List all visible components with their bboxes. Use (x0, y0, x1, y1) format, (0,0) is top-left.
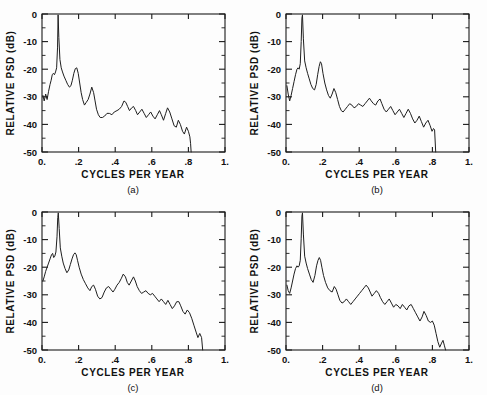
psd-curve-a (43, 15, 191, 152)
psd-plot-a: 0..2.4.6.81.0-10-20-30-40-50 CYCLES PER … (0, 0, 243, 197)
plot-frame-b (286, 14, 469, 152)
x-tick-label: .6 (392, 156, 400, 167)
psd-curve-b (287, 15, 436, 152)
x-tick-label: 1. (221, 156, 229, 167)
figure-container: 0..2.4.6.81.0-10-20-30-40-50 CYCLES PER … (0, 0, 487, 395)
y-tick-label: -30 (267, 289, 281, 300)
y-tick-label: 0 (276, 9, 281, 20)
x-tick-label: 0. (38, 156, 46, 167)
psd-plot-d: 0..2.4.6.81.0-10-20-30-40-50 CYCLES PER … (244, 198, 487, 395)
y-tick-label: -30 (267, 91, 281, 102)
axis-tick-labels-a: 0..2.4.6.81.0-10-20-30-40-50 (23, 9, 229, 168)
x-axis-label-c: CYCLES PER YEAR (81, 367, 184, 378)
plot-frame-a (42, 14, 225, 152)
axis-ticks-c (42, 212, 225, 350)
x-tick-label: .8 (428, 156, 436, 167)
y-axis-label-c: RELATIVE PSD (dB) (5, 228, 16, 333)
x-axis-label-d: CYCLES PER YEAR (325, 367, 428, 378)
y-axis-label-b: RELATIVE PSD (dB) (249, 30, 260, 135)
panel-label-c: (c) (127, 382, 138, 393)
y-tick-label: -10 (23, 36, 37, 47)
psd-plot-c: 0..2.4.6.81.0-10-20-30-40-50 CYCLES PER … (0, 198, 243, 395)
y-axis-label-a: RELATIVE PSD (dB) (5, 30, 16, 135)
y-tick-label: -40 (23, 317, 37, 328)
x-tick-label: .8 (184, 156, 192, 167)
y-tick-label: -10 (267, 36, 281, 47)
x-tick-label: 0. (38, 354, 46, 365)
axis-tick-labels-b: 0..2.4.6.81.0-10-20-30-40-50 (267, 9, 473, 168)
y-tick-label: 0 (32, 207, 37, 218)
psd-panel-d: 0..2.4.6.81.0-10-20-30-40-50 CYCLES PER … (244, 198, 487, 395)
y-tick-label: -10 (23, 234, 37, 245)
x-tick-label: .8 (428, 354, 436, 365)
psd-plot-b: 0..2.4.6.81.0-10-20-30-40-50 CYCLES PER … (244, 0, 487, 197)
y-tick-label: 0 (276, 207, 281, 218)
y-tick-label: -20 (267, 64, 281, 75)
panel-label-d: (d) (371, 382, 383, 393)
y-tick-label: -40 (23, 119, 37, 130)
plot-frame-c (42, 212, 225, 350)
x-tick-label: 1. (465, 156, 473, 167)
psd-panel-a: 0..2.4.6.81.0-10-20-30-40-50 CYCLES PER … (0, 0, 243, 197)
y-tick-label: -20 (23, 64, 37, 75)
x-axis-label-b: CYCLES PER YEAR (325, 169, 428, 180)
x-axis-label-a: CYCLES PER YEAR (81, 169, 184, 180)
y-axis-label-d: RELATIVE PSD (dB) (249, 228, 260, 333)
x-tick-label: .4 (355, 354, 364, 365)
y-tick-label: -20 (23, 262, 37, 273)
x-tick-label: .8 (184, 354, 192, 365)
x-tick-label: 1. (221, 354, 229, 365)
axis-tick-labels-c: 0..2.4.6.81.0-10-20-30-40-50 (23, 207, 229, 366)
x-tick-label: .4 (111, 354, 120, 365)
psd-panel-b: 0..2.4.6.81.0-10-20-30-40-50 CYCLES PER … (244, 0, 487, 197)
panel-label-b: (b) (371, 184, 383, 195)
axis-ticks-a (42, 14, 225, 152)
y-tick-label: 0 (32, 9, 37, 20)
y-tick-label: -10 (267, 234, 281, 245)
y-tick-label: -40 (267, 119, 281, 130)
y-tick-label: -30 (23, 91, 37, 102)
psd-panel-c: 0..2.4.6.81.0-10-20-30-40-50 CYCLES PER … (0, 198, 243, 395)
x-tick-label: .4 (111, 156, 120, 167)
psd-curve-c (43, 213, 203, 350)
y-tick-label: -40 (267, 317, 281, 328)
axis-ticks-b (286, 14, 469, 152)
x-tick-label: .2 (319, 156, 327, 167)
psd-curve-d (287, 213, 446, 350)
x-tick-label: .4 (355, 156, 364, 167)
x-tick-label: .6 (148, 354, 156, 365)
x-tick-label: .2 (319, 354, 327, 365)
y-tick-label: -30 (23, 289, 37, 300)
x-tick-label: .6 (148, 156, 156, 167)
y-tick-label: -50 (23, 345, 37, 356)
x-tick-label: .2 (75, 354, 83, 365)
x-tick-label: .2 (75, 156, 83, 167)
y-tick-label: -50 (267, 345, 281, 356)
y-tick-label: -20 (267, 262, 281, 273)
x-tick-label: .6 (392, 354, 400, 365)
x-tick-label: 0. (282, 156, 290, 167)
x-tick-label: 0. (282, 354, 290, 365)
panel-label-a: (a) (127, 184, 139, 195)
y-tick-label: -50 (267, 147, 281, 158)
x-tick-label: 1. (465, 354, 473, 365)
y-tick-label: -50 (23, 147, 37, 158)
